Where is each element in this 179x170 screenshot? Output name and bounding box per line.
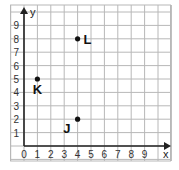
y-tick-label: 9: [13, 20, 19, 31]
y-tick-label: 4: [13, 87, 19, 98]
point-j: [75, 117, 80, 122]
y-axis-arrow-icon: [20, 7, 28, 14]
x-tick-label: 3: [61, 149, 67, 160]
x-tick-label: 4: [75, 149, 81, 160]
y-tick-label: 7: [13, 47, 19, 58]
x-tick-label: 6: [102, 149, 108, 160]
x-tick-label: 7: [115, 149, 121, 160]
y-tick-label: 5: [13, 74, 19, 85]
x-tick-label: 5: [88, 149, 94, 160]
x-tick-label: 8: [128, 149, 134, 160]
x-tick-label: 2: [48, 149, 54, 160]
x-tick-label: 9: [142, 149, 148, 160]
y-tick-label: 6: [13, 61, 19, 72]
point-label-k: K: [33, 82, 43, 97]
point-l: [75, 36, 80, 41]
x-tick-label: 1: [35, 149, 41, 160]
point-label-l: L: [84, 32, 92, 47]
y-tick-label: 2: [13, 114, 19, 125]
x-tick-label: 0: [21, 149, 27, 160]
y-tick-label: 8: [13, 34, 19, 45]
y-axis-label: y: [30, 6, 36, 18]
point-label-j: J: [63, 121, 70, 136]
point-k: [35, 76, 40, 81]
coordinate-grid: xy0123456789123456789LKJ: [0, 0, 179, 170]
y-tick-label: 1: [13, 128, 19, 139]
x-axis-label: x: [163, 148, 169, 160]
y-tick-label: 3: [13, 101, 19, 112]
